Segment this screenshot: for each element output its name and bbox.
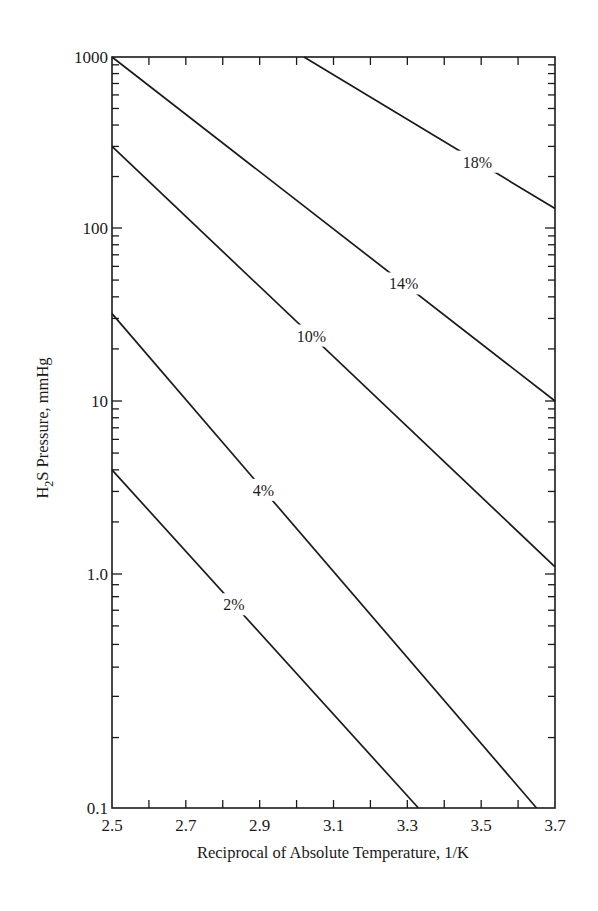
- y-axis-title-prefix: H: [33, 487, 52, 499]
- x-tick-label: 2.7: [175, 816, 197, 835]
- series-labels: 18%14%10%4%2%: [214, 151, 498, 616]
- x-tick-label: 3.5: [471, 816, 492, 835]
- y-tick-label: 0.1: [87, 799, 108, 818]
- x-tick-label: 2.9: [249, 816, 270, 835]
- y-axis-title: H2S Pressure, mmHg: [33, 357, 56, 498]
- series-line-18pct: [304, 57, 555, 209]
- series-label: 14%: [389, 275, 418, 292]
- x-axis-title: Reciprocal of Absolute Temperature, 1/K: [197, 843, 469, 862]
- y-axis-title-suffix: S Pressure, mmHg: [33, 357, 52, 480]
- series-label: 18%: [463, 154, 492, 171]
- y-tick-label: 10: [91, 392, 108, 411]
- series-label: 4%: [253, 482, 274, 499]
- x-tick-label: 3.7: [544, 816, 566, 835]
- y-tick-label: 1000: [74, 48, 108, 67]
- series-line-4pct: [112, 314, 537, 808]
- chart: 2.52.72.93.13.33.53.71000100101.00.1 18%…: [0, 0, 598, 911]
- y-tick-label: 100: [83, 219, 109, 238]
- x-tick-label: 3.3: [397, 816, 418, 835]
- series-line-2pct: [112, 470, 418, 808]
- series-line-10pct: [112, 146, 555, 566]
- y-tick-label: 1.0: [87, 565, 108, 584]
- series-label: 10%: [297, 328, 326, 345]
- x-tick-label: 2.5: [101, 816, 122, 835]
- series-line-14pct: [112, 57, 555, 401]
- x-tick-label: 3.1: [323, 816, 344, 835]
- series-label: 2%: [223, 596, 244, 613]
